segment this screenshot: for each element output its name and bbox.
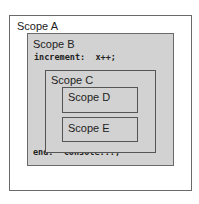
scope-c-label: Scope C (51, 74, 93, 86)
increment-statement: increment: x++; (34, 52, 116, 62)
scope-b-label: Scope B (33, 38, 75, 50)
scope-d-label: Scope D (68, 91, 110, 103)
scope-e-label: Scope E (68, 122, 110, 134)
scope-d-box: Scope D (62, 87, 138, 113)
scope-a-label: Scope A (17, 20, 58, 32)
scope-e-box: Scope E (62, 117, 138, 142)
